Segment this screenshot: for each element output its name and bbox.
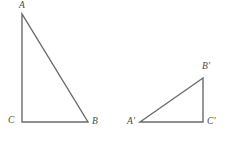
vertex-label-a-prime: A' — [127, 117, 135, 127]
triangle-a-prime-b-prime-c-prime — [140, 78, 203, 122]
diagram-canvas: A C B A' B' C' — [0, 0, 230, 142]
triangle-abc-outline — [22, 14, 88, 122]
vertex-label-a: A — [19, 1, 25, 11]
vertex-label-b: B — [92, 117, 98, 127]
vertex-label-c: C — [8, 116, 14, 126]
vertex-label-c-prime: C' — [207, 117, 216, 127]
vertex-label-b-prime: B' — [202, 62, 210, 72]
triangle-abc — [22, 14, 88, 122]
triangles-figure — [0, 0, 230, 142]
triangle-a-prime-b-prime-c-prime-outline — [140, 78, 203, 122]
